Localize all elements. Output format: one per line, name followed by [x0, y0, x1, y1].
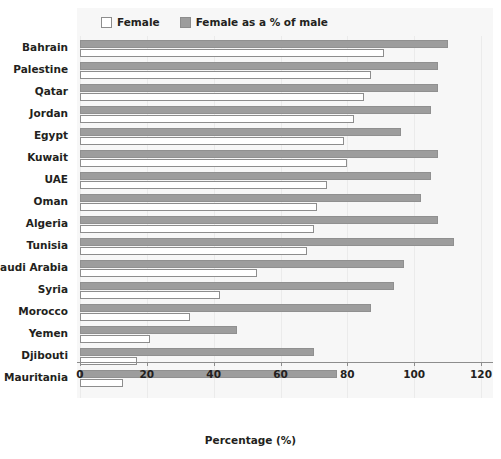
- bar-row: Qatar: [77, 82, 493, 104]
- bar-pct-of-male-tunisia: [80, 238, 454, 246]
- category-label-syria: Syria: [0, 283, 68, 295]
- category-label-morocco: Morocco: [0, 305, 68, 317]
- bar-pct-of-male-kuwait: [80, 150, 438, 158]
- bar-pct-of-male-algeria: [80, 216, 438, 224]
- bar-row: Jordan: [77, 104, 493, 126]
- bar-pct-of-male-djibouti: [80, 348, 314, 356]
- legend-label-female: Female: [117, 16, 160, 28]
- bar-female-morocco: [80, 313, 190, 321]
- category-label-uae: UAE: [0, 173, 68, 185]
- plot-area: BahrainPalestineQatarJordanEgyptKuwaitUA…: [77, 36, 493, 398]
- tick-label-20: 20: [140, 368, 155, 380]
- bar-row: UAE: [77, 170, 493, 192]
- bar-female-tunisia: [80, 247, 307, 255]
- category-label-saudi-arabia: Saudi Arabia: [0, 261, 68, 273]
- category-label-tunisia: Tunisia: [0, 239, 68, 251]
- bar-pct-of-male-oman: [80, 194, 421, 202]
- legend-label-female-pct-of-male: Female as a % of male: [196, 16, 328, 28]
- bar-pct-of-male-egypt: [80, 128, 401, 136]
- tick-mark: [414, 363, 415, 366]
- tick-label-0: 0: [76, 368, 83, 380]
- bar-female-palestine: [80, 71, 371, 79]
- plot-wrapper: BahrainPalestineQatarJordanEgyptKuwaitUA…: [0, 36, 501, 404]
- category-label-bahrain: Bahrain: [0, 41, 68, 53]
- bar-female-kuwait: [80, 159, 347, 167]
- bar-female-syria: [80, 291, 220, 299]
- bar-female-saudi-arabia: [80, 269, 257, 277]
- x-axis-ticks: 020406080100120: [77, 363, 493, 383]
- chart-legend: Female Female as a % of male: [77, 8, 493, 36]
- gray-square-icon: [180, 17, 191, 28]
- bar-row: Saudi Arabia: [77, 258, 493, 280]
- legend-entry-female-pct-of-male: Female as a % of male: [180, 16, 328, 28]
- legend-entry-female: Female: [101, 16, 160, 28]
- tick-label-100: 100: [403, 368, 425, 380]
- category-label-jordan: Jordan: [0, 107, 68, 119]
- tick-mark: [281, 363, 282, 366]
- bar-row: Morocco: [77, 302, 493, 324]
- bar-female-algeria: [80, 225, 314, 233]
- bar-row: Algeria: [77, 214, 493, 236]
- bar-female-bahrain: [80, 49, 384, 57]
- category-label-egypt: Egypt: [0, 129, 68, 141]
- category-label-palestine: Palestine: [0, 63, 68, 75]
- tick-label-120: 120: [470, 368, 492, 380]
- category-label-mauritania: Mauritania: [0, 371, 68, 383]
- bar-female-egypt: [80, 137, 344, 145]
- bar-pct-of-male-syria: [80, 282, 394, 290]
- category-label-oman: Oman: [0, 195, 68, 207]
- bar-female-jordan: [80, 115, 354, 123]
- bar-pct-of-male-palestine: [80, 62, 438, 70]
- bar-pct-of-male-qatar: [80, 84, 438, 92]
- category-label-djibouti: Djibouti: [0, 349, 68, 361]
- bar-row: Kuwait: [77, 148, 493, 170]
- tick-mark: [80, 363, 81, 366]
- bar-row: Egypt: [77, 126, 493, 148]
- tick-mark: [347, 363, 348, 366]
- bar-pct-of-male-jordan: [80, 106, 431, 114]
- x-axis-label: Percentage (%): [0, 434, 501, 446]
- category-label-kuwait: Kuwait: [0, 151, 68, 163]
- category-label-yemen: Yemen: [0, 327, 68, 339]
- bar-female-qatar: [80, 93, 364, 101]
- bar-female-uae: [80, 181, 327, 189]
- bar-row: Yemen: [77, 324, 493, 346]
- bar-pct-of-male-morocco: [80, 304, 371, 312]
- category-label-algeria: Algeria: [0, 217, 68, 229]
- bar-pct-of-male-saudi-arabia: [80, 260, 404, 268]
- tick-mark: [481, 363, 482, 366]
- white-square-icon: [101, 17, 112, 28]
- bar-row: Oman: [77, 192, 493, 214]
- category-label-qatar: Qatar: [0, 85, 68, 97]
- tick-label-60: 60: [273, 368, 288, 380]
- bar-pct-of-male-uae: [80, 172, 431, 180]
- bar-female-oman: [80, 203, 317, 211]
- tick-mark: [147, 363, 148, 366]
- bar-row: Syria: [77, 280, 493, 302]
- tick-label-80: 80: [340, 368, 355, 380]
- bar-chart: Female Female as a % of male BahrainPale…: [0, 0, 501, 459]
- bar-row: Bahrain: [77, 38, 493, 60]
- bar-row: Tunisia: [77, 236, 493, 258]
- bar-rows: BahrainPalestineQatarJordanEgyptKuwaitUA…: [77, 36, 493, 398]
- bar-pct-of-male-bahrain: [80, 40, 448, 48]
- bar-female-yemen: [80, 335, 150, 343]
- tick-mark: [214, 363, 215, 366]
- bar-row: Palestine: [77, 60, 493, 82]
- bar-pct-of-male-yemen: [80, 326, 237, 334]
- tick-label-40: 40: [206, 368, 221, 380]
